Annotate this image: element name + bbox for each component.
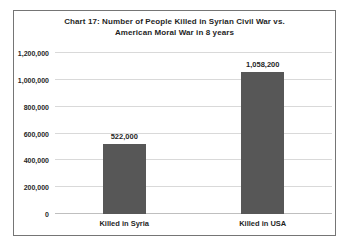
x-axis-line	[55, 213, 332, 214]
y-tick-label: 200,000	[16, 183, 49, 192]
chart-page: Chart 17: Number of People Killed in Syr…	[0, 0, 350, 245]
gridline	[55, 186, 332, 187]
category-label-usa: Killed in USA	[239, 219, 286, 228]
value-label-syria: 522,000	[111, 132, 138, 141]
gridline	[55, 106, 332, 107]
gridline	[55, 133, 332, 134]
chart-title: Chart 17: Number of People Killed in Syr…	[14, 16, 335, 38]
y-tick-label: 1,000,000	[16, 76, 49, 85]
plot-area: 522,000 1,058,200	[55, 53, 332, 214]
bar-killed-in-syria	[103, 144, 146, 214]
y-tick-label: 800,000	[16, 103, 49, 112]
chart-frame: Chart 17: Number of People Killed in Syr…	[13, 10, 336, 236]
y-tick-label: 0	[16, 210, 49, 219]
y-tick-label: 600,000	[16, 130, 49, 139]
y-tick-label: 1,200,000	[16, 49, 49, 58]
chart-title-line-1: Chart 17: Number of People Killed in Syr…	[14, 16, 335, 27]
gridline	[55, 159, 332, 160]
chart-title-line-2: American Moral War in 8 years	[14, 27, 335, 38]
gridline	[55, 79, 332, 80]
category-label-syria: Killed in Syria	[99, 219, 149, 228]
y-tick-label: 400,000	[16, 156, 49, 165]
gridline	[55, 52, 332, 53]
bar-killed-in-usa	[241, 72, 284, 214]
value-label-usa: 1,058,200	[246, 60, 279, 69]
